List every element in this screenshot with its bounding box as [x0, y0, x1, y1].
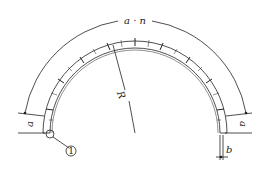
segment-label-left: a — [24, 121, 35, 127]
segment-joints — [46, 38, 224, 110]
thickness-label: b — [226, 144, 232, 155]
radius-label: R — [114, 88, 127, 100]
dimension-arc — [25, 21, 118, 113]
arc-length-label: a · n — [124, 15, 146, 26]
arch-diagram: a · n R a a b 1 — [0, 0, 271, 171]
callout-number: 1 — [68, 146, 74, 156]
arch-inner — [50, 48, 220, 133]
arch-inner-2 — [52, 50, 218, 133]
arch-outer — [43, 41, 227, 133]
segment-label-right: a — [238, 121, 249, 127]
